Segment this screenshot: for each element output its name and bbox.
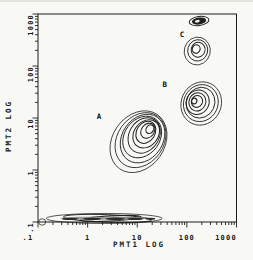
cluster-B-contour: [174, 75, 229, 132]
band-speckle-2: [61, 218, 78, 220]
cluster-B-contour: [182, 86, 213, 118]
y-axis-title: PMT2 LOG: [4, 100, 13, 152]
band-speckle-4: [105, 218, 125, 221]
contour-plot-figure: PMT1 LOG PMT2 LOG ABC.11101001000.111010…: [0, 0, 253, 260]
band-speckle-6: [145, 218, 155, 220]
x-tick-label: .1: [23, 234, 34, 242]
x-tick-label: 100: [179, 234, 195, 242]
cluster-label-B: B: [163, 80, 168, 89]
cluster-C-contour: [181, 34, 213, 68]
cluster-A-contour: [105, 103, 177, 178]
y-tick-label: 1000: [27, 14, 35, 36]
y-tick-label: .1: [27, 222, 35, 233]
band-speckle-3: [83, 218, 102, 221]
cluster-A-contour: [138, 120, 158, 141]
cluster-label-A: A: [97, 112, 102, 121]
y-tick-label: 1: [27, 170, 35, 175]
x-tick-label: 1000: [215, 234, 237, 242]
cluster-A-contour: [127, 114, 165, 153]
band-speckle-5: [127, 218, 143, 220]
plot-canvas: PMT1 LOG PMT2 LOG ABC.11101001000.111010…: [0, 0, 253, 260]
x-tick-label: 10: [132, 234, 143, 242]
cluster-label-C: C: [180, 30, 185, 39]
y-tick-label: 10: [27, 118, 35, 129]
cluster-B-contour: [177, 79, 224, 128]
x-tick-label: 1: [85, 234, 90, 242]
scanned-flow-cytometry-page: { "colors": { "background": "#f8f8f5", "…: [0, 0, 253, 260]
y-tick-label: 100: [27, 66, 35, 82]
